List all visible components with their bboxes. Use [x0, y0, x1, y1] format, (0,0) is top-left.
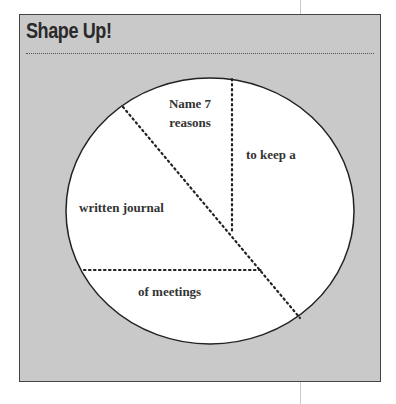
segment-left-label: written journal [79, 198, 164, 217]
segment-bottom-label: of meetings [138, 282, 201, 301]
pie-puzzle [0, 0, 396, 404]
segment-top-line1: Name 7 [150, 94, 230, 113]
segment-top-line2: reasons [150, 113, 230, 132]
segment-top-label: Name 7 reasons [150, 94, 230, 132]
segment-right-label: to keep a [246, 145, 296, 164]
